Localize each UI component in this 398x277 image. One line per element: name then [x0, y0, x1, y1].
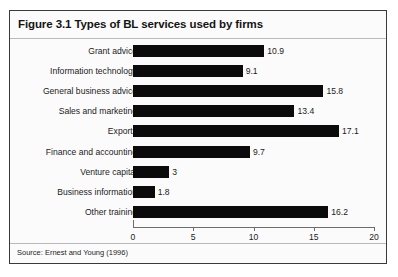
- figure-container: Figure 3.1 Types of BL services used by …: [9, 10, 387, 264]
- x-axis-tick-mark: [193, 227, 194, 231]
- bar: [133, 206, 328, 218]
- bar-category-label: Finance and accounting: [46, 147, 137, 157]
- bar-category-label: Information technology: [50, 66, 137, 76]
- x-axis-tick-label: 15: [309, 232, 319, 242]
- x-axis-tick-label: 10: [249, 232, 259, 242]
- x-axis-tick-mark: [254, 227, 255, 231]
- bar-category-label: Other training: [85, 207, 137, 217]
- x-axis-tick-mark: [374, 227, 375, 231]
- bar-chart-plot-area: Grant advice10.9Information technology9.…: [10, 39, 386, 243]
- bar-category-label: Sales and marketing: [59, 106, 137, 116]
- bar-value-label: 3: [172, 167, 177, 177]
- bar-value-label: 1.8: [158, 187, 170, 197]
- bar-category-label: Business information: [57, 187, 137, 197]
- bar-category-label: Venture capital: [80, 167, 137, 177]
- bar-category-label: Grant advice: [88, 46, 137, 56]
- bar: [133, 125, 339, 137]
- x-axis-tick-label: 0: [131, 232, 136, 242]
- x-axis-tick-mark: [314, 227, 315, 231]
- bar: [133, 146, 250, 158]
- x-axis-tick-label: 20: [369, 232, 379, 242]
- source-note: Source: Ernest and Young (1996): [17, 248, 128, 257]
- bar: [133, 166, 169, 178]
- x-axis-tick-label: 5: [191, 232, 196, 242]
- bar-category-label: General business advice: [43, 86, 137, 96]
- bar: [133, 45, 264, 57]
- bar-value-label: 15.8: [326, 86, 343, 96]
- source-divider: [10, 243, 386, 244]
- bar-value-label: 9.7: [253, 147, 265, 157]
- bar-value-label: 10.9: [267, 46, 284, 56]
- bar: [133, 65, 243, 77]
- figure-title: Figure 3.1 Types of BL services used by …: [18, 18, 263, 30]
- bar: [133, 105, 294, 117]
- bar-value-label: 17.1: [342, 126, 359, 136]
- bar-value-label: 13.4: [297, 106, 314, 116]
- bar-value-label: 9.1: [246, 66, 258, 76]
- bar-value-label: 16.2: [331, 207, 348, 217]
- bar: [133, 186, 155, 198]
- bar: [133, 85, 323, 97]
